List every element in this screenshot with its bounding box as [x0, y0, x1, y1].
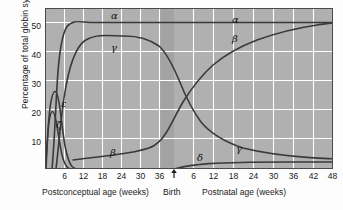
- x-tick-left-36: 36: [150, 172, 170, 181]
- label-gamma-postnatal: γ: [236, 144, 242, 154]
- x-tick-right-24: 24: [244, 172, 264, 181]
- plot-area: α γ ε ζ β α β δ γ: [45, 8, 333, 169]
- birth-label: Birth: [163, 188, 180, 197]
- y-tick-50: 50: [25, 22, 41, 31]
- y-tick-30: 30: [25, 80, 41, 89]
- x-tick-right-12: 12: [204, 172, 224, 181]
- x-axis-title-prenatal: Postconceptual age (weeks): [42, 188, 149, 197]
- x-tick-right-48: 48: [323, 172, 343, 181]
- label-alpha-prenatal: α: [111, 11, 118, 21]
- x-axis-ticks: 6 12 18 24 30 36 6 12 18 24 30 36 42 48: [0, 172, 343, 184]
- x-tick-left-24: 24: [112, 172, 132, 181]
- label-beta-prenatal: β: [110, 148, 116, 158]
- x-tick-left-12: 12: [74, 172, 94, 181]
- plot-background: [45, 8, 333, 169]
- label-beta-postnatal: β: [232, 34, 238, 44]
- x-tick-right-18: 18: [224, 172, 244, 181]
- x-axis-title-postnatal: Postnatal age (weeks): [202, 188, 286, 197]
- x-tick-right-6: 6: [184, 172, 204, 181]
- x-tick-right-30: 30: [264, 172, 284, 181]
- x-tick-left-6: 6: [55, 172, 75, 181]
- label-delta: δ: [197, 153, 203, 163]
- x-tick-right-42: 42: [304, 172, 324, 181]
- chart-svg: [45, 8, 333, 169]
- x-tick-left-30: 30: [131, 172, 151, 181]
- label-epsilon: ε: [61, 99, 66, 109]
- x-tick-left-18: 18: [93, 172, 113, 181]
- label-alpha-postnatal: α: [232, 15, 239, 25]
- y-tick-40: 40: [25, 51, 41, 60]
- chart-figure: Percentage of total globin synthesis 50 …: [0, 0, 343, 210]
- y-tick-10: 10: [25, 138, 41, 147]
- label-zeta: ζ: [56, 120, 61, 130]
- label-gamma-prenatal: γ: [111, 43, 117, 53]
- y-tick-20: 20: [25, 109, 41, 118]
- birth-band: [160, 8, 174, 169]
- x-tick-right-36: 36: [284, 172, 304, 181]
